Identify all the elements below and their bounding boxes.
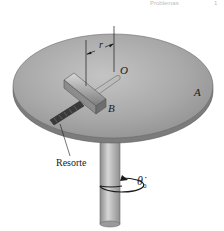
diagram-svg bbox=[0, 0, 224, 231]
shaft bbox=[100, 140, 120, 227]
disk-A bbox=[13, 34, 213, 143]
figure-disk-slider: Problemas 1 bbox=[0, 0, 224, 231]
label-angular-velocity: θ̇0 bbox=[137, 174, 146, 190]
label-r: r bbox=[99, 39, 103, 50]
label-A: A bbox=[194, 86, 201, 98]
label-spring: Resorte bbox=[56, 157, 87, 168]
label-B: B bbox=[108, 102, 115, 114]
label-O: O bbox=[120, 64, 128, 76]
theta-subscript: 0 bbox=[143, 182, 147, 190]
